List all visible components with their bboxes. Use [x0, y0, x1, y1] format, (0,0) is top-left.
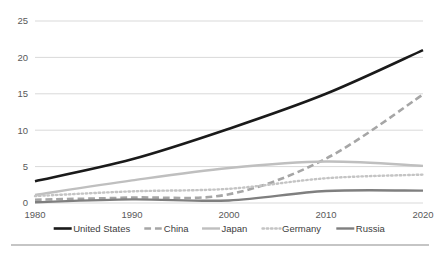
legend-label-germany: Germany [282, 223, 321, 234]
x-tick-label-2020: 2020 [412, 209, 433, 220]
x-tick-label-2000: 2000 [218, 209, 239, 220]
line-chart: 0510152025 19801990200020102020 United S… [0, 0, 440, 255]
y-tick-label-20: 20 [17, 52, 28, 63]
legend-label-united-states: United States [73, 223, 130, 234]
x-tick-label-1980: 1980 [24, 209, 45, 220]
legend-label-japan: Japan [222, 223, 248, 234]
y-tick-label-25: 25 [17, 15, 28, 26]
x-tick-label-1990: 1990 [121, 209, 142, 220]
x-tick-label-2010: 2010 [315, 209, 336, 220]
y-tick-label-5: 5 [23, 161, 28, 172]
legend-label-russia: Russia [356, 223, 386, 234]
y-tick-label-10: 10 [17, 125, 28, 136]
legend-label-china: China [164, 223, 190, 234]
y-tick-label-0: 0 [23, 197, 28, 208]
y-tick-label-15: 15 [17, 88, 28, 99]
chart-canvas: 0510152025 19801990200020102020 United S… [0, 0, 440, 255]
